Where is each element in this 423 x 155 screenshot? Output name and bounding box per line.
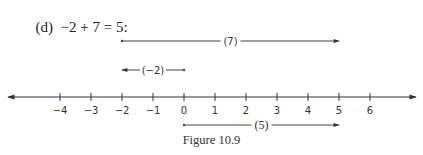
segment-arrow: (7) [121, 36, 339, 47]
tick-label: 0 [181, 105, 187, 116]
segment-label: (7) [223, 36, 237, 47]
tick-label: 5 [336, 105, 342, 116]
figure-caption: Figure 10.9 [0, 133, 423, 148]
tick-label: 1 [212, 105, 218, 116]
segment-start-dot [121, 40, 123, 42]
segment-label: (−2) [142, 65, 165, 76]
segment-arrow: (−2) [122, 65, 185, 76]
tick-label: 6 [367, 105, 373, 116]
tick-label: 4 [305, 105, 311, 116]
number-line-diagram: −4−3−2−10123456 (7)(−2)(5) [0, 0, 423, 155]
segment-start-dot [183, 69, 185, 71]
segment-arrow: (5) [183, 118, 339, 132]
tick-label: 3 [274, 105, 280, 116]
tick-label: −3 [84, 105, 99, 116]
tick-label: 2 [243, 105, 249, 116]
segment-start-dot [183, 124, 185, 126]
tick-label: −1 [146, 105, 161, 116]
tick-label: −2 [115, 105, 130, 116]
tick-label: −4 [53, 105, 68, 116]
segment-label: (5) [255, 118, 269, 132]
